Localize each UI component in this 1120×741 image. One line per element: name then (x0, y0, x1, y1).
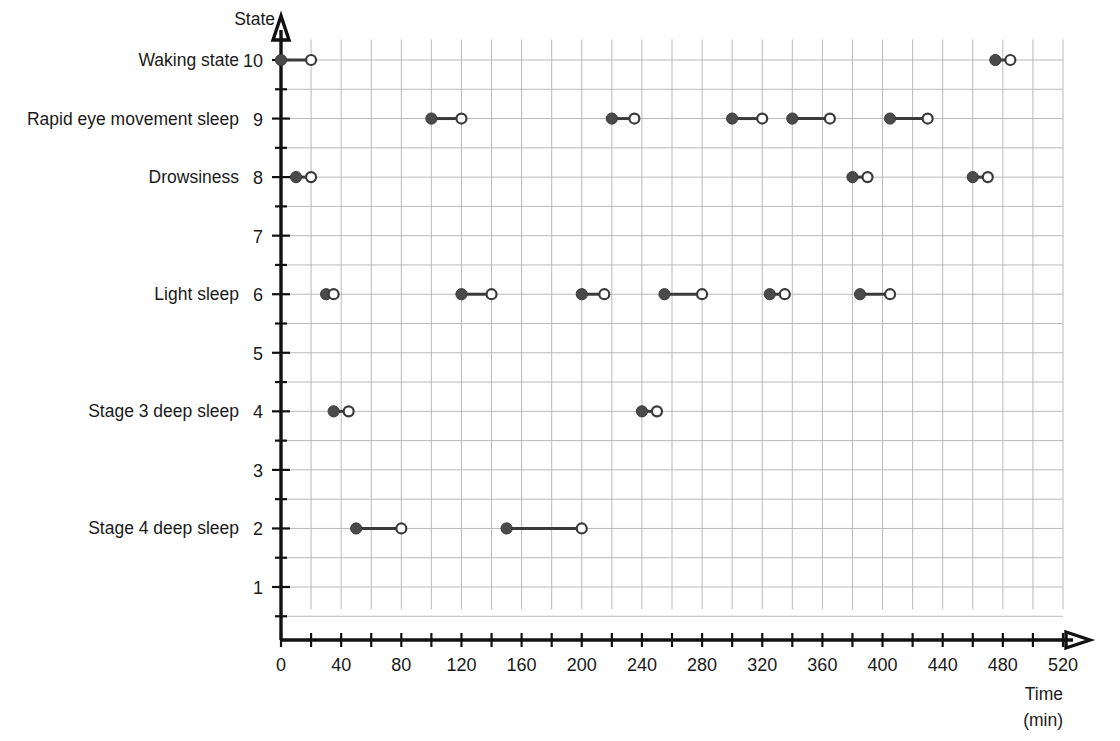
segment-end-marker (306, 172, 316, 182)
y-tick-label: 8 (253, 168, 263, 188)
y-tick-label: 5 (253, 344, 263, 364)
segment-end-marker (780, 289, 790, 299)
x-tick-label: 160 (507, 655, 537, 675)
segment (659, 289, 707, 300)
segment-end-marker (863, 172, 873, 182)
segment-end-marker (697, 289, 707, 299)
segment-start-marker (884, 113, 895, 124)
x-tick-label: 360 (807, 655, 837, 675)
segment (275, 54, 316, 65)
x-tick-label: 480 (988, 655, 1018, 675)
x-tick-label: 520 (1048, 655, 1078, 675)
segment-end-marker (1005, 55, 1015, 65)
segment-end-marker (344, 406, 354, 416)
segment-end-marker (923, 114, 933, 124)
segment-start-marker (636, 406, 647, 417)
x-tick-label: 40 (331, 655, 351, 675)
y-tick-label: 10 (243, 51, 263, 71)
segment-end-marker (396, 523, 406, 533)
x-axis-title-line2: (min) (1023, 710, 1063, 730)
segment-end-marker (329, 289, 339, 299)
segment (501, 523, 587, 534)
segment-start-marker (967, 172, 978, 183)
x-tick-label: 120 (446, 655, 476, 675)
x-tick-label: 440 (928, 655, 958, 675)
vertical-gridlines (311, 40, 1063, 610)
y-axis-state-labels: Waking stateRapid eye movement sleepDrow… (27, 50, 239, 538)
segment-end-marker (599, 289, 609, 299)
segment-start-marker (456, 289, 467, 300)
segment-start-marker (351, 523, 362, 534)
segment-start-marker (501, 523, 512, 534)
segment (967, 172, 993, 183)
y-tick-label: 1 (253, 578, 263, 598)
x-tick-label: 400 (868, 655, 898, 675)
segment (787, 113, 835, 124)
x-tick-label: 0 (276, 655, 286, 675)
segment-end-marker (885, 289, 895, 299)
segment (576, 289, 609, 300)
segment-start-marker (426, 113, 437, 124)
segment (321, 289, 339, 300)
segment-start-marker (275, 54, 286, 65)
segment-end-marker (652, 406, 662, 416)
segment-end-marker (757, 114, 767, 124)
segment-start-marker (290, 172, 301, 183)
segment (636, 406, 662, 417)
y-state-label: Light sleep (154, 284, 239, 304)
segment-end-marker (825, 114, 835, 124)
segment-end-marker (629, 114, 639, 124)
segment (854, 289, 895, 300)
chart-canvas: 04080120160200240280320360400440480520 1… (0, 0, 1120, 741)
segment-end-marker (487, 289, 497, 299)
segment (351, 523, 407, 534)
y-state-label: Stage 3 deep sleep (88, 401, 239, 421)
y-tick-label: 3 (253, 461, 263, 481)
segment-start-marker (606, 113, 617, 124)
segment-start-marker (847, 172, 858, 183)
segment (727, 113, 768, 124)
y-tick-label: 9 (253, 110, 263, 130)
segment (847, 172, 873, 183)
y-state-label: Stage 4 deep sleep (88, 518, 239, 538)
segment-start-marker (727, 113, 738, 124)
y-axis-tick-labels: 12345678910 (243, 51, 263, 598)
segment-start-marker (659, 289, 670, 300)
segment-start-marker (328, 406, 339, 417)
x-tick-label: 200 (567, 655, 597, 675)
y-state-label: Rapid eye movement sleep (27, 109, 239, 129)
segment-start-marker (990, 54, 1001, 65)
segment (606, 113, 639, 124)
segment (884, 113, 932, 124)
segment-start-marker (787, 113, 798, 124)
segment-start-marker (764, 289, 775, 300)
y-tick-label: 2 (253, 519, 263, 539)
segment-end-marker (577, 523, 587, 533)
segment-end-marker (456, 114, 466, 124)
x-tick-label: 320 (747, 655, 777, 675)
segment (456, 289, 497, 300)
y-state-label: Waking state (138, 50, 239, 70)
sleep-state-chart: 04080120160200240280320360400440480520 1… (0, 0, 1120, 741)
y-tick-label: 4 (253, 402, 263, 422)
y-state-label: Drowsiness (149, 167, 240, 187)
segment-end-marker (983, 172, 993, 182)
y-tick-label: 6 (253, 285, 263, 305)
segment (764, 289, 790, 300)
segment (290, 172, 316, 183)
x-tick-label: 280 (687, 655, 717, 675)
y-tick-label: 7 (253, 227, 263, 247)
x-tick-label: 80 (391, 655, 411, 675)
y-axis-title: State (234, 9, 275, 29)
axes (273, 16, 1090, 648)
segment-start-marker (854, 289, 865, 300)
x-tick-label: 240 (627, 655, 657, 675)
x-axis-tick-labels: 04080120160200240280320360400440480520 (276, 655, 1078, 675)
x-axis-title-line1: Time (1025, 684, 1063, 704)
segment (426, 113, 467, 124)
segment-end-marker (306, 55, 316, 65)
segment-start-marker (576, 289, 587, 300)
